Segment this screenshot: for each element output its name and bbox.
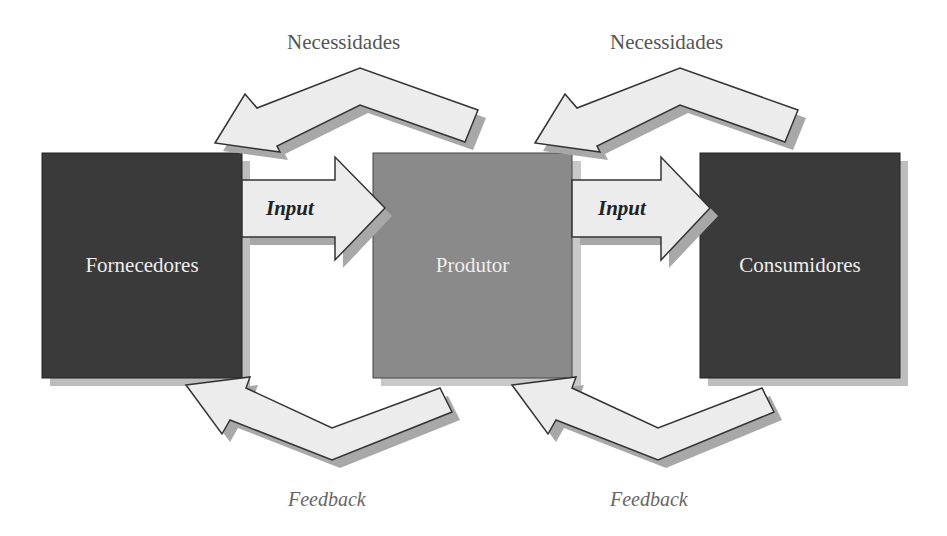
feedback-label-1: Feedback [288,488,366,511]
necessidades-label-1: Necessidades [287,30,400,55]
consumidores-label: Consumidores [700,153,900,378]
necessidades-arrow-1 [215,68,478,152]
produtor-label: Produtor [373,153,572,378]
feedback-label-2: Feedback [610,488,688,511]
input-label-1: Input [266,196,314,221]
feedback-arrow-1 [186,377,452,460]
necessidades-label-2: Necessidades [610,30,723,55]
fornecedores-label: Fornecedores [42,153,242,378]
input-label-2: Input [598,196,646,221]
necessidades-arrow-2 [535,68,798,152]
feedback-arrow-2 [512,377,774,460]
